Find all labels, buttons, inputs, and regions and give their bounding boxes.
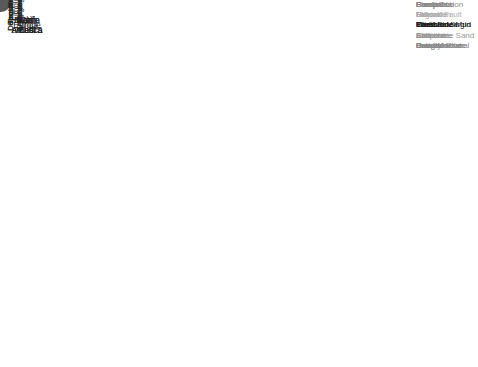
legend-item: Paleostructural [416,41,469,51]
legend-item: Tilted Block [416,20,469,30]
row-label: Trapping Mechanism [4,0,26,18]
legend-item: Anticline [416,31,469,41]
legend-item: Pinch-Out [416,0,469,10]
bubble-grid-chart [0,0,478,367]
row-legend: Pinch-OutNormal FaultTilted BlockAnticli… [416,0,469,51]
legend-item: Normal Fault [416,10,469,20]
